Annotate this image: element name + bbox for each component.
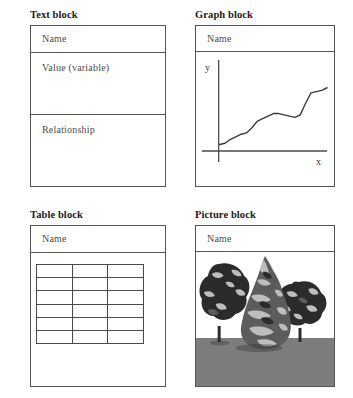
text-block-relationship-row: Relationship xyxy=(31,115,165,186)
table-row xyxy=(37,265,144,278)
picture-block-title: Picture block xyxy=(195,208,335,221)
table-cell[interactable] xyxy=(108,291,144,304)
graph-block-name-label: Name xyxy=(196,33,232,45)
picture-block-name-row: Name xyxy=(196,226,334,252)
table-cell[interactable] xyxy=(72,265,108,278)
data-table-body xyxy=(37,265,144,344)
table-cell[interactable] xyxy=(108,304,144,317)
picture-block-section: Picture block Name xyxy=(195,208,335,387)
graph-block-name-row: Name xyxy=(196,26,334,52)
table-block-name-label: Name xyxy=(31,233,67,245)
table-cell[interactable] xyxy=(37,291,73,304)
text-block-name-row: Name xyxy=(31,26,165,53)
table-block-section: Table block Name xyxy=(30,208,166,387)
table-cell[interactable] xyxy=(108,330,144,343)
table-cell[interactable] xyxy=(37,330,73,343)
text-block-value-label: Value (variable) xyxy=(31,53,165,74)
text-block-box: Name Value (variable) Relationship xyxy=(30,25,166,187)
table-block-box: Name xyxy=(30,225,166,387)
table-row xyxy=(37,304,144,317)
table-row xyxy=(37,317,144,330)
table-block-body xyxy=(31,253,165,386)
text-block-relationship-label: Relationship xyxy=(31,115,165,136)
table-cell[interactable] xyxy=(108,265,144,278)
text-block-name-label: Name xyxy=(31,33,67,45)
graph-svg xyxy=(196,52,334,186)
graph-block-box: Name y x xyxy=(195,25,335,187)
picture-block-box: Name xyxy=(195,225,335,387)
table-cell[interactable] xyxy=(72,317,108,330)
table-block-name-row: Name xyxy=(31,226,165,253)
table-cell[interactable] xyxy=(108,317,144,330)
table-cell[interactable] xyxy=(108,278,144,291)
table-cell[interactable] xyxy=(72,278,108,291)
graph-block-section: Graph block Name y x xyxy=(195,8,335,187)
table-row xyxy=(37,330,144,343)
text-block-value-row: Value (variable) xyxy=(31,53,165,115)
graph-curve xyxy=(220,88,327,145)
graph-y-axis-label: y xyxy=(205,62,210,73)
text-block-title: Text block xyxy=(30,8,166,21)
picture-svg xyxy=(196,252,334,386)
data-table xyxy=(36,264,144,344)
table-cell[interactable] xyxy=(37,304,73,317)
picture-image xyxy=(196,252,334,386)
graph-x-axis-label: x xyxy=(316,156,321,167)
tree-shadow xyxy=(235,344,282,352)
table-cell[interactable] xyxy=(37,278,73,291)
tree-shadow-left xyxy=(210,341,230,346)
table-cell[interactable] xyxy=(72,291,108,304)
table-cell[interactable] xyxy=(72,304,108,317)
picture-block-name-label: Name xyxy=(196,233,232,245)
table-cell[interactable] xyxy=(37,265,73,278)
graph-plot-area: y x xyxy=(196,52,334,186)
text-block-section: Text block Name Value (variable) Relatio… xyxy=(30,8,166,187)
table-row xyxy=(37,291,144,304)
table-cell[interactable] xyxy=(72,330,108,343)
graph-block-title: Graph block xyxy=(195,8,335,21)
table-row xyxy=(37,278,144,291)
table-cell[interactable] xyxy=(37,317,73,330)
table-block-title: Table block xyxy=(30,208,166,221)
